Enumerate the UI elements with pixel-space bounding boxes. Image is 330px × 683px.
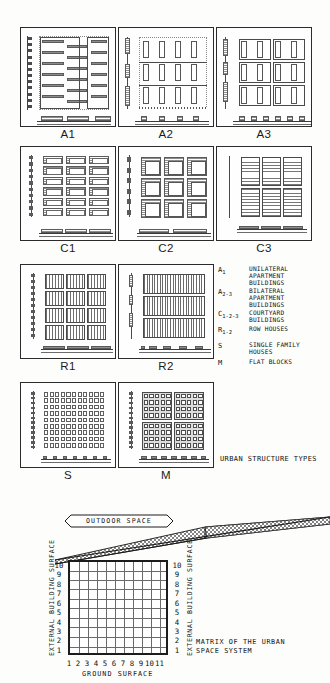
point-block [257,64,263,81]
side-elevation-block [223,62,228,75]
single-family-plot [55,411,59,416]
scale-ruler-vertical [27,36,28,110]
flat-unit [181,407,185,412]
single-family-plot [44,405,48,410]
panel-label-S: S [20,469,116,481]
y-tick-right-1: 1 [171,646,183,655]
ruler-tick [127,168,131,173]
ruler-tick [28,105,32,108]
matrix-title: MATRIX OF THE URBAN SPACE SYSTEM [196,638,285,656]
flat-unit [161,437,165,442]
panel-C3[interactable] [216,146,312,241]
ruler-tick [31,322,35,325]
flat-unit [176,424,180,429]
ruler-tick [129,392,133,395]
ruler-tick [29,181,33,184]
point-block [291,87,297,104]
panel-A2[interactable] [118,27,214,127]
ruler-tick [31,286,35,289]
panel-A3[interactable] [216,27,312,127]
flat-unit [198,394,202,399]
elevation-block [299,116,305,121]
side-elevation-block [129,313,133,327]
elevation-block [67,346,89,349]
flat-unit [176,407,180,412]
elevation-block [73,456,77,459]
courtyard-void [46,210,62,216]
flat-unit [181,394,185,399]
access-street [139,85,207,86]
scale-ruler-vertical [129,155,130,217]
flat-unit [181,413,185,418]
panel-label-R1: R1 [20,360,116,372]
flat-unit [155,430,159,435]
flat-unit [187,400,191,405]
single-family-plot [66,398,70,403]
ruler-tick [28,62,32,65]
elevation-block [53,456,57,459]
panel-R1[interactable] [20,264,116,359]
scale-bar-horizontal [137,233,211,234]
ruler-tick [129,441,133,444]
elevation-block [41,116,63,121]
panel-C1[interactable] [20,146,116,241]
ruler-tick [127,189,131,194]
flat-unit [176,400,180,405]
ruler-tick [127,199,131,204]
side-elevation-block [125,38,130,54]
single-family-plot [83,424,87,429]
single-family-plot [94,405,98,410]
point-block [275,41,281,58]
matrix-grid[interactable] [68,560,168,655]
point-block [143,64,149,81]
panel-label-R2: R2 [118,360,214,372]
point-block [175,41,181,58]
elevation-block [161,456,167,459]
flat-unit [144,437,148,442]
elevation-block [195,346,203,349]
ruler-tick [28,93,32,96]
single-family-plot [61,437,65,442]
courtyard-void [69,168,85,174]
courtyard-void [92,200,108,206]
panel-A1[interactable] [20,27,116,127]
flat-unit [198,430,202,435]
courtyard-void [92,189,108,195]
dense-courtyard-block [241,188,260,217]
panel-S[interactable] [20,382,116,468]
ruler-tick [31,280,35,283]
flat-unit [181,443,185,448]
elevation-block [181,456,187,459]
ruler-tick [31,310,35,313]
flat-unit [166,407,170,412]
flat-unit [176,443,180,448]
scale-bar-horizontal [233,121,311,122]
ruler-tick [31,412,35,415]
block-outline [87,37,109,109]
ruler-tick [29,206,33,209]
panel-M[interactable] [118,382,214,468]
single-family-plot [89,405,93,410]
row-house-strip [143,296,205,316]
panel-R2[interactable] [118,264,214,359]
panel-label-A3: A3 [216,128,312,140]
legend-symbol-A1: A1 [218,266,225,275]
point-block [159,87,165,104]
flat-unit [187,424,191,429]
elevation-block [43,346,65,349]
courtyard-void [46,179,62,185]
elevation-block [201,456,206,459]
panel-C2[interactable] [118,146,214,241]
single-family-plot [72,405,76,410]
y-tick-right-4: 4 [171,618,183,627]
single-family-plot [94,443,98,448]
flat-unit [166,443,170,448]
elevation-block [149,346,157,349]
courtyard-void [168,182,183,196]
single-family-plot [89,430,93,435]
ruler-tick [31,316,35,319]
ruler-tick [28,74,32,77]
y-tick-right-7: 7 [171,589,183,598]
flat-unit [181,437,185,442]
single-family-plot [89,443,93,448]
